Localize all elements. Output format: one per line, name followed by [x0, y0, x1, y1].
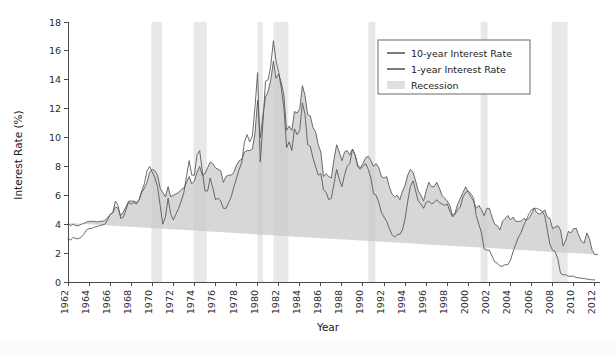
x-tick-label: 2006 — [523, 290, 534, 314]
y-tick-label: 6 — [55, 190, 61, 201]
y-tick-label: 8 — [55, 161, 61, 172]
x-tick-label: 1968 — [122, 290, 133, 314]
y-tick-label: 10 — [49, 132, 61, 143]
legend-label: 10-year Interest Rate — [411, 48, 512, 59]
x-tick-label: 1978 — [228, 290, 239, 314]
x-tick-label: 1990 — [354, 290, 365, 314]
y-tick-label: 16 — [49, 45, 61, 56]
y-tick-label: 4 — [55, 219, 61, 230]
interest-rate-chart: 0246810121416181962196419661968197019721… — [0, 0, 616, 340]
y-tick-label: 14 — [49, 74, 61, 85]
y-tick-label: 0 — [55, 277, 61, 288]
x-tick-label: 1976 — [206, 290, 217, 314]
chart-legend: 10-year Interest Rate1-year Interest Rat… — [378, 40, 530, 94]
figure-canvas: 0246810121416181962196419661968197019721… — [0, 0, 616, 340]
x-tick-label: 1984 — [291, 290, 302, 314]
x-tick-label: 1962 — [59, 290, 70, 314]
y-tick-label: 12 — [49, 103, 61, 114]
x-tick-label: 1992 — [375, 290, 386, 314]
x-tick-label: 1980 — [249, 290, 260, 314]
x-tick-label: 1994 — [396, 290, 407, 314]
x-tick-label: 1974 — [185, 290, 196, 314]
x-tick-label: 2002 — [480, 290, 491, 314]
x-tick-label: 2012 — [586, 290, 597, 314]
y-axis-title: Interest Rate (%) — [12, 110, 24, 199]
x-tick-label: 2010 — [565, 290, 576, 314]
x-axis-title: Year — [316, 321, 340, 333]
x-tick-label: 1988 — [333, 290, 344, 314]
legend-label: 1-year Interest Rate — [411, 64, 506, 75]
x-tick-label: 1996 — [417, 290, 428, 314]
x-tick-label: 1966 — [101, 290, 112, 314]
x-tick-label: 1972 — [164, 290, 175, 314]
y-tick-label: 2 — [55, 248, 61, 259]
x-tick-label: 2000 — [459, 290, 470, 314]
figure-container: 0246810121416181962196419661968197019721… — [0, 0, 616, 357]
x-tick-label: 1986 — [312, 290, 323, 314]
x-tick-label: 2004 — [501, 290, 512, 314]
x-tick-label: 2008 — [544, 290, 555, 314]
x-tick-label: 1964 — [80, 290, 91, 314]
x-tick-label: 1970 — [143, 290, 154, 314]
legend-label: Recession — [411, 80, 458, 91]
x-tick-label: 1982 — [270, 290, 281, 314]
recession-band — [151, 22, 162, 282]
y-tick-label: 18 — [49, 17, 61, 28]
x-tick-label: 1998 — [438, 290, 449, 314]
legend-patch-marker — [387, 81, 405, 89]
recession-band — [368, 22, 375, 282]
